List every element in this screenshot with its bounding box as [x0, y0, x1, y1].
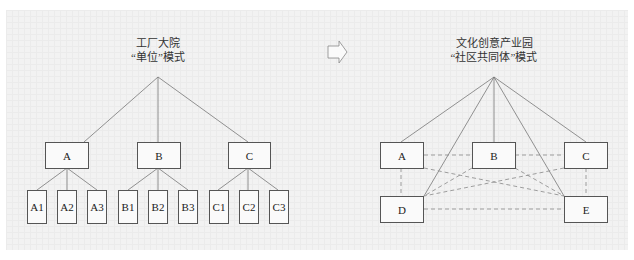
- left-title: 工厂大院 “单位”模式: [108, 36, 208, 64]
- node-label: A1: [30, 201, 43, 213]
- node-label: A2: [60, 201, 73, 213]
- node-label: B3: [182, 201, 195, 213]
- node-label: C3: [273, 201, 286, 213]
- node-label: C: [246, 150, 253, 162]
- net-node-e: E: [564, 196, 608, 223]
- node-label: D: [398, 204, 406, 216]
- node-a: A: [45, 142, 89, 169]
- node-a2: A2: [57, 190, 77, 224]
- net-node-b: B: [472, 142, 516, 169]
- node-a1: A1: [27, 190, 47, 224]
- node-label: A: [398, 150, 406, 162]
- right-arrow-outline-icon: [328, 41, 347, 63]
- node-label: C2: [243, 201, 256, 213]
- node-b1: B1: [118, 190, 138, 224]
- node-label: A3: [90, 201, 103, 213]
- net-node-d: D: [380, 196, 424, 223]
- node-label: B2: [152, 201, 165, 213]
- node-c2: C2: [239, 190, 259, 224]
- node-label: B1: [122, 201, 135, 213]
- node-c1: C1: [209, 190, 229, 224]
- right-title: 文化创意产业园 “社区共同体”模式: [444, 36, 544, 64]
- node-label: C1: [213, 201, 226, 213]
- right-title-line1: 文化创意产业园: [444, 36, 544, 50]
- net-node-a: A: [380, 142, 424, 169]
- node-b2: B2: [148, 190, 168, 224]
- left-title-line2: “单位”模式: [108, 50, 208, 64]
- net-node-c: C: [564, 142, 608, 169]
- node-c: C: [228, 142, 271, 169]
- node-c3: C3: [269, 190, 289, 224]
- left-title-line1: 工厂大院: [108, 36, 208, 50]
- node-label: B: [490, 150, 497, 162]
- node-label: A: [63, 150, 71, 162]
- node-a3: A3: [87, 190, 107, 224]
- right-title-line2: “社区共同体”模式: [444, 50, 544, 64]
- node-b3: B3: [178, 190, 198, 224]
- node-label: E: [583, 204, 590, 216]
- node-label: B: [155, 150, 162, 162]
- node-b: B: [137, 142, 181, 169]
- node-label: C: [582, 150, 589, 162]
